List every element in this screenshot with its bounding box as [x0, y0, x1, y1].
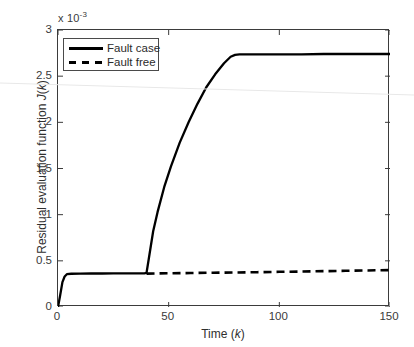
x-tick-label: 150	[379, 310, 398, 322]
legend-label: Fault free	[107, 57, 156, 69]
x-axis-title: Time (k)	[57, 327, 389, 341]
plot-curves-svg	[58, 30, 390, 307]
legend-label: Fault case	[107, 43, 160, 55]
x-tick-label: 50	[161, 310, 174, 322]
y-axis-multiplier-exponent: -3	[80, 10, 88, 19]
axis-ticks	[58, 30, 390, 307]
y-tick-label: 2.5	[11, 69, 57, 81]
y-tick-label: 0.5	[11, 254, 57, 266]
legend-entry-fault-free: Fault free	[64, 55, 160, 70]
y-tick-label: 3	[11, 23, 57, 35]
y-tick-label: 1.5	[11, 162, 57, 174]
series-line-fault-case	[58, 54, 390, 307]
legend-box: Fault case Fault free	[63, 38, 159, 71]
y-axis-title: Residual evaluation function J(k)	[35, 42, 49, 292]
y-tick-label: 0	[11, 300, 57, 312]
legend-swatch-solid-line-icon	[69, 43, 103, 55]
y-axis-multiplier-label: x 10-3	[58, 10, 87, 24]
x-tick-label: 100	[269, 310, 288, 322]
legend-entry-fault-case: Fault case	[64, 41, 160, 56]
legend-swatch-dashed-line-icon	[69, 57, 103, 69]
series-line-fault-free	[147, 270, 390, 274]
y-tick-label: 2	[11, 115, 57, 127]
figure-canvas: x 10-3 0 0.5 1 1.5 2 2.5 3 0 50 100 150 …	[0, 0, 414, 347]
x-tick-label: 0	[54, 310, 60, 322]
y-tick-label: 1	[11, 208, 57, 220]
y-axis-multiplier-base: x 10	[58, 12, 80, 24]
